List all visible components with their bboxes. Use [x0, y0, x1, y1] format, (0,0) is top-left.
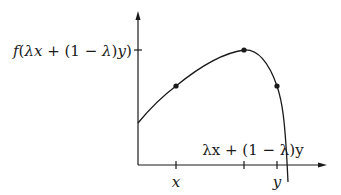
y-axis-arrow-icon — [136, 11, 141, 20]
label-paren: ) — [126, 42, 132, 60]
point-f-mid — [241, 47, 246, 52]
x-tick-label-x: x — [172, 173, 181, 191]
y-axis — [134, 11, 142, 165]
label-plus: + — [42, 42, 64, 60]
x-tick-label-y: y — [272, 173, 282, 191]
function-curve — [138, 50, 288, 182]
label-lambda: λ — [101, 42, 112, 60]
label-one-minus: (1 − — [65, 42, 103, 60]
point-fy — [274, 83, 279, 88]
x-axis-arrow-icon — [318, 163, 327, 168]
x-tick-label-mid: λx + (1 − λ)y — [202, 141, 304, 159]
label-lambda: λ — [23, 42, 34, 60]
y-tick-label: f(λx + (1 − λ)y) — [12, 42, 132, 60]
x-axis — [138, 161, 327, 169]
point-fx — [173, 83, 178, 88]
concave-function-diagram: f(λx + (1 − λ)y) x λx + (1 − λ)y y — [0, 0, 341, 195]
